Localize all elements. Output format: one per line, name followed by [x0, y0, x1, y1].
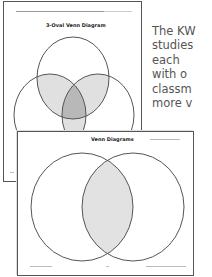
two-circle-venn-worksheet: Venn Diagrams: [17, 131, 194, 276]
description-line: more v: [152, 96, 212, 110]
description-text: The KW studies each with o classm more v: [152, 24, 212, 110]
description-line: classm: [152, 82, 212, 96]
description-line: each: [152, 53, 212, 67]
footer-text: [10, 172, 14, 173]
footer-left-text: [30, 266, 52, 267]
footer-right-text: [146, 266, 186, 267]
description-line: The KW: [152, 24, 212, 38]
description-line: with o: [152, 67, 212, 81]
footer-page-number: [106, 266, 109, 267]
description-line: studies: [152, 38, 212, 52]
two-circle-venn-diagram: [18, 132, 195, 277]
